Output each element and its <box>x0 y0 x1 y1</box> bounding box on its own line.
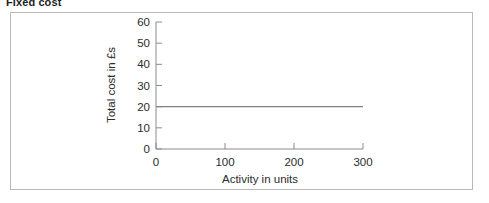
y-tick-label: 10 <box>137 122 150 134</box>
y-tick-label: 50 <box>137 37 150 49</box>
fixed-cost-line-chart: 0102030405060 0100200300 Total cost in £… <box>11 13 474 191</box>
y-axis-ticks: 0102030405060 <box>137 16 162 155</box>
figure-title: Fixed cost <box>6 0 61 8</box>
y-tick-label: 60 <box>137 16 150 28</box>
chart-panel: 0102030405060 0100200300 Total cost in £… <box>10 12 473 190</box>
y-tick-label: 30 <box>137 80 150 92</box>
y-tick-label: 20 <box>137 101 150 113</box>
x-tick-label: 0 <box>153 156 159 168</box>
y-tick-label: 0 <box>144 143 150 155</box>
chart-figure: Fixed cost 0102030405060 0100200300 Tota… <box>0 0 489 203</box>
x-axis-title: Activity in units <box>222 173 298 185</box>
x-axis-ticks: 0100200300 <box>153 143 373 168</box>
x-tick-label: 300 <box>353 156 372 168</box>
y-tick-label: 40 <box>137 58 150 70</box>
x-tick-label: 200 <box>284 156 303 168</box>
y-axis-title: Total cost in £s <box>105 47 117 123</box>
x-tick-label: 100 <box>215 156 234 168</box>
